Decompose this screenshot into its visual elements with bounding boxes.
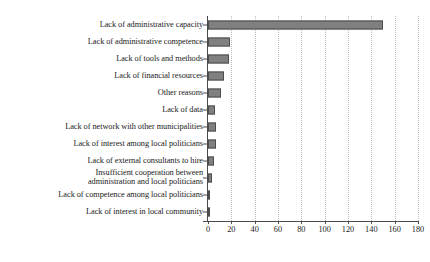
bar-row: Lack of competence among local politicia… xyxy=(0,187,430,204)
bar-row: Lack of interest among local politicians xyxy=(0,136,430,153)
x-axis-tick-mark xyxy=(418,221,419,224)
x-axis-tick-mark xyxy=(208,221,209,224)
bar xyxy=(208,208,210,217)
bar xyxy=(208,71,224,80)
x-axis-tick-label: 120 xyxy=(342,225,354,234)
bar-row: Lack of tools and methods xyxy=(0,50,430,67)
bar-row: Lack of data xyxy=(0,101,430,118)
category-label: Lack of administrative competence xyxy=(88,37,203,46)
category-label: Lack of interest in local community xyxy=(86,208,203,217)
x-axis-tick-label: 40 xyxy=(251,225,259,234)
bar-row: Lack of network with other municipalitie… xyxy=(0,118,430,135)
x-axis-tick-mark xyxy=(231,221,232,224)
bar-row: Lack of administrative capacity xyxy=(0,16,430,33)
x-axis-tick-mark xyxy=(278,221,279,224)
bar xyxy=(208,54,229,63)
category-label: Lack of competence among local politicia… xyxy=(58,191,203,200)
horizontal-bar-chart: Lack of administrative capacityLack of a… xyxy=(0,0,430,262)
category-label: Insufficient cooperation between adminis… xyxy=(88,170,203,187)
bar xyxy=(208,191,210,200)
x-axis-ticks: 020406080100120140160180 xyxy=(0,221,430,241)
bar-row: Lack of administrative competence xyxy=(0,33,430,50)
x-axis-tick-label: 100 xyxy=(318,225,330,234)
category-label: Lack of interest among local politicians xyxy=(73,140,203,149)
bar xyxy=(208,157,214,166)
category-label: Lack of financial resources xyxy=(114,71,203,80)
x-axis-tick-label: 140 xyxy=(365,225,377,234)
bar-row: Lack of external consultants to hire xyxy=(0,153,430,170)
x-axis-tick-mark xyxy=(395,221,396,224)
x-axis-tick-label: 0 xyxy=(206,225,210,234)
bar xyxy=(208,174,212,183)
bar xyxy=(208,123,216,132)
x-axis-tick-label: 60 xyxy=(274,225,282,234)
bar xyxy=(208,105,215,114)
x-axis-tick-label: 160 xyxy=(388,225,400,234)
bar xyxy=(208,37,230,46)
bar-rows: Lack of administrative capacityLack of a… xyxy=(0,16,430,221)
x-axis-tick-label: 80 xyxy=(297,225,305,234)
bar-row: Lack of financial resources xyxy=(0,67,430,84)
category-label: Lack of network with other municipalitie… xyxy=(65,123,203,132)
bar-row: Lack of interest in local community xyxy=(0,204,430,221)
category-label: Lack of tools and methods xyxy=(116,54,203,63)
bar xyxy=(208,88,221,97)
category-label: Other reasons xyxy=(158,89,203,98)
bar-row: Other reasons xyxy=(0,84,430,101)
x-axis-tick-label: 20 xyxy=(227,225,235,234)
x-axis-tick-mark xyxy=(371,221,372,224)
bar-row: Insufficient cooperation between adminis… xyxy=(0,170,430,187)
category-label: Lack of administrative capacity xyxy=(100,20,203,29)
x-axis-tick-mark xyxy=(255,221,256,224)
x-axis-tick-mark xyxy=(301,221,302,224)
x-axis-tick-label: 180 xyxy=(412,225,424,234)
x-axis-tick-mark xyxy=(325,221,326,224)
category-label: Lack of data xyxy=(162,106,203,115)
bar xyxy=(208,20,383,29)
bar xyxy=(208,140,216,149)
category-label: Lack of external consultants to hire xyxy=(88,157,203,166)
x-axis-tick-mark xyxy=(348,221,349,224)
